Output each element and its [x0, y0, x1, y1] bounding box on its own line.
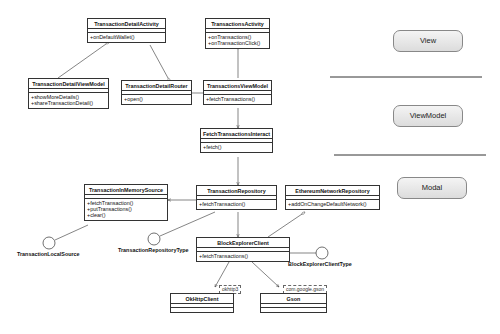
operation: +open() — [124, 96, 189, 102]
class-operations — [261, 308, 326, 312]
operation: +fetch() — [203, 144, 270, 150]
operation: +shareTransactionDetail() — [31, 100, 106, 106]
class-operations: +fetch() — [201, 143, 272, 152]
transaction-repository-type-interface-icon — [148, 233, 160, 245]
class-name: Gson — [261, 294, 326, 304]
layer-label-modal: Modal — [397, 177, 467, 199]
interface-label-block-explorer-client-type: BlockExplorerClientType — [288, 261, 352, 267]
operation: +clear() — [87, 212, 165, 218]
class-transactions-view-model[interactable]: TransactionsViewModel +fetchTransactions… — [203, 80, 272, 105]
class-operations: +fetchTransactions() — [197, 252, 289, 261]
operation: +fetchTransaction() — [199, 201, 274, 207]
class-name: TransactionDetailActivity — [88, 19, 165, 29]
class-name: OkHttpClient — [171, 294, 233, 304]
class-name: TransactionDetailRouter — [122, 81, 191, 91]
class-block-explorer-client[interactable]: BlockExplorerClient +fetchTransactions() — [196, 237, 290, 262]
class-transaction-in-memory-source[interactable]: TransactionInMemorySource +fetchTransact… — [84, 184, 168, 221]
class-name: TransactionInMemorySource — [85, 185, 167, 195]
class-transaction-detail-activity[interactable]: TransactionDetailActivity +onDefaultWall… — [87, 18, 166, 43]
class-name: TransactionRepository — [197, 186, 276, 196]
class-name: BlockExplorerClient — [197, 238, 289, 248]
class-fetch-transactions-interact[interactable]: FetchTransactionsInteract +fetch() — [200, 128, 273, 153]
class-operations: +onTransactions() +onTransactionClick() — [206, 33, 269, 48]
class-transaction-detail-router[interactable]: TransactionDetailRouter +open() — [121, 80, 192, 105]
layer-label-view: View — [393, 30, 463, 52]
operation: +onDefaultWallet() — [90, 34, 163, 40]
class-name: TransactionDetailViewModel — [29, 79, 108, 89]
class-operations: +onDefaultWallet() — [88, 33, 165, 42]
class-name: EthereumNetworkRepository — [286, 186, 379, 196]
layer-label-view-model: ViewModel — [393, 105, 463, 127]
operation: +addOnChangeDefaultNetwork() — [288, 201, 377, 207]
class-operations: +addOnChangeDefaultNetwork() — [286, 200, 379, 209]
class-ethereum-network-repository[interactable]: EthereumNetworkRepository +addOnChangeDe… — [285, 185, 380, 210]
class-operations: +fetchTransactions() — [204, 95, 271, 104]
class-name: TransactionsViewModel — [204, 81, 271, 91]
class-ok-http-client[interactable]: OkHttpClient — [170, 293, 234, 313]
class-gson[interactable]: Gson — [260, 293, 327, 313]
interface-label-transaction-local-source: TransactionLocalSource — [17, 251, 80, 257]
class-operations: +open() — [122, 95, 191, 104]
class-transaction-repository[interactable]: TransactionRepository +fetchTransaction(… — [196, 185, 277, 210]
class-operations: +fetchTransaction() +putTransactions() +… — [85, 199, 167, 220]
class-operations: +showMoreDetails() +shareTransactionDeta… — [29, 93, 108, 108]
operation: +fetchTransactions() — [199, 253, 287, 259]
interface-label-transaction-repository-type: TransactionRepositoryType — [118, 247, 189, 253]
block-explorer-client-type-interface-icon — [316, 247, 328, 259]
class-transaction-detail-view-model[interactable]: TransactionDetailViewModel +showMoreDeta… — [28, 78, 109, 109]
operation: +onTransactionClick() — [208, 40, 267, 46]
class-operations: +fetchTransaction() — [197, 200, 276, 209]
class-operations — [171, 308, 233, 312]
transaction-local-source-interface-icon — [43, 237, 55, 249]
class-transactions-activity[interactable]: TransactionsActivity +onTransactions() +… — [205, 18, 270, 49]
operation: +fetchTransactions() — [206, 96, 269, 102]
class-name: FetchTransactionsInteract — [201, 129, 272, 139]
class-name: TransactionsActivity — [206, 19, 269, 29]
